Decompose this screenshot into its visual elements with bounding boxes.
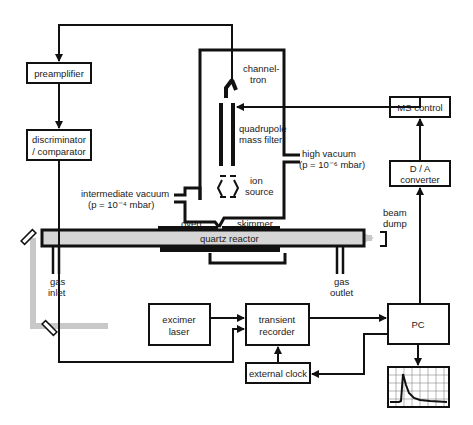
quadrupole-label-2: mass filter: [239, 134, 282, 145]
gas-outlet-label-1: gas: [334, 276, 350, 287]
pc-label: PC: [411, 319, 424, 330]
preamplifier-block: preamplifier: [27, 63, 91, 83]
oven-label: oven: [181, 218, 202, 229]
recorder-label: recorder: [259, 326, 294, 337]
beam-dump-label-2: dump: [383, 218, 407, 229]
beam-dump-label-1: beam: [383, 207, 407, 218]
high-vacuum-label: high vacuum: [302, 148, 356, 159]
quadrupole-rod-left: [219, 103, 223, 166]
preamplifier-label: preamplifier: [34, 68, 84, 79]
ion-source-icon: [218, 176, 238, 197]
da-label: D / A: [410, 163, 431, 174]
excimer-label: excimer: [162, 314, 195, 325]
discriminator-block: discriminator / comparator: [27, 130, 91, 160]
channeltron-label-1: channel-: [243, 63, 279, 74]
gas-inlet-label-2: inlet: [48, 287, 66, 298]
gas-outlet-port: [337, 247, 343, 274]
beam-dump-icon: [380, 232, 386, 246]
gas-outlet-label-2: outlet: [330, 287, 354, 298]
ion-source-label-1: ion: [250, 175, 263, 186]
apparatus-diagram: quartz reactor preamplifier discriminato…: [0, 0, 473, 425]
quartz-reactor-label: quartz reactor: [200, 233, 259, 244]
da-converter-block: D / A converter: [390, 161, 450, 186]
laser-label: laser: [169, 326, 190, 337]
channeltron-label-2: tron: [250, 74, 266, 85]
comparator-label: / comparator: [32, 146, 85, 157]
external-clock-block: external clock: [246, 363, 310, 383]
quartz-reactor: quartz reactor: [42, 226, 364, 252]
channeltron-icon: [226, 80, 236, 98]
intermediate-vacuum-label: intermediate vacuum: [81, 188, 169, 199]
quadrupole-label-1: quadrupole: [239, 123, 287, 134]
pc-block: PC: [388, 304, 449, 344]
ion-source-label-2: source: [245, 186, 274, 197]
transient-label: transient: [259, 314, 296, 325]
discriminator-label: discriminator: [32, 134, 86, 145]
gas-inlet-label-1: gas: [50, 276, 66, 287]
transient-recorder-block: transient recorder: [246, 304, 309, 345]
intermediate-vacuum-pressure: (p = 10⁻⁴ mbar): [88, 199, 154, 210]
skimmer-label: skimmer: [237, 218, 273, 229]
converter-label: converter: [400, 174, 440, 185]
signal-display-icon: [388, 367, 449, 407]
excimer-laser-block: excimer laser: [149, 304, 210, 345]
high-vacuum-pressure: (p = 10⁻⁶ mbar): [299, 159, 365, 170]
external-clock-label: external clock: [249, 368, 307, 379]
quadrupole-rod-right: [231, 103, 235, 166]
